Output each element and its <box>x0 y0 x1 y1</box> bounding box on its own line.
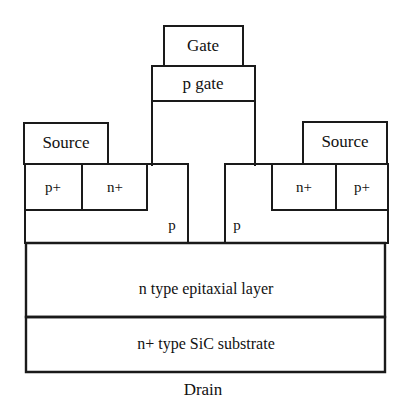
left-p-plus-label: p+ <box>45 180 61 195</box>
left-p-well-label: p <box>168 218 176 233</box>
right-implant-row <box>272 164 388 210</box>
p-gate-label: p gate <box>182 75 223 92</box>
sic-mosfet-cross-section-figure: Gate p gate Source Source p+ n+ n+ p+ p … <box>0 0 406 414</box>
substrate-layer-label: n+ type SiC substrate <box>137 336 274 352</box>
left-implant-row <box>25 164 147 210</box>
left-n-plus-label: n+ <box>107 180 123 195</box>
right-n-plus-label: n+ <box>296 180 312 195</box>
epitaxial-layer-label: n type epitaxial layer <box>139 281 274 297</box>
gate-contact-label: Gate <box>187 37 219 54</box>
right-p-plus-label: p+ <box>354 180 370 195</box>
right-p-well-outline <box>225 164 388 243</box>
right-source-label: Source <box>321 133 368 150</box>
drain-terminal-label: Drain <box>184 381 223 398</box>
gate-column-walls <box>152 101 255 165</box>
right-p-well-label: p <box>233 218 241 233</box>
left-source-label: Source <box>42 134 89 151</box>
left-p-well-outline <box>25 164 188 243</box>
